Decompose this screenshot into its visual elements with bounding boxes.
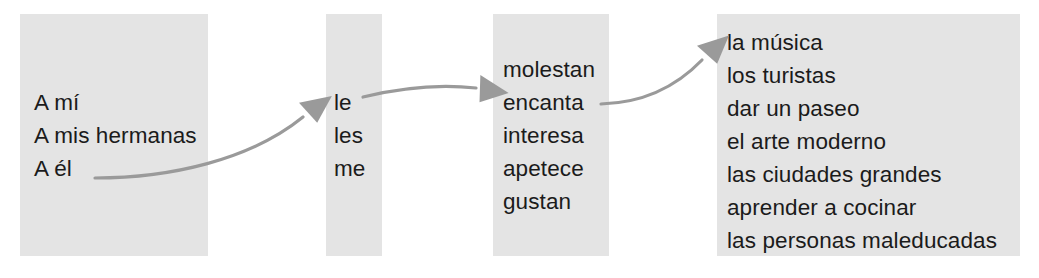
sentence-builder-diagram: A mí A mis hermanas A él le les me moles… — [0, 0, 1039, 278]
list-item: el arte moderno — [727, 125, 1020, 158]
list-item: interesa — [503, 119, 609, 152]
list-item: encanta — [503, 86, 609, 119]
list-item: A mí — [34, 86, 208, 119]
list-item: A mis hermanas — [34, 119, 208, 152]
list-item: le — [334, 86, 382, 119]
list-item: las personas maleducadas — [727, 224, 1020, 257]
list-item: apetece — [503, 152, 609, 185]
list-item: las ciudades grandes — [727, 158, 1020, 191]
list-item: A él — [34, 152, 208, 185]
arrow-verbs-to-objects-shaft — [601, 60, 702, 104]
column-pronouns: le les me — [326, 14, 382, 256]
column-objects: la música los turistas dar un paseo el a… — [717, 14, 1020, 256]
list-item: los turistas — [727, 59, 1020, 92]
list-item: la música — [727, 26, 1020, 59]
list-item: dar un paseo — [727, 92, 1020, 125]
list-item: les — [334, 119, 382, 152]
column-verbs: molestan encanta interesa apetece gustan — [493, 14, 609, 256]
list-item: me — [334, 152, 382, 185]
list-item: aprender a cocinar — [727, 191, 1020, 224]
list-item: molestan — [503, 53, 609, 86]
list-item: gustan — [503, 185, 609, 218]
column-subjects: A mí A mis hermanas A él — [20, 14, 208, 256]
